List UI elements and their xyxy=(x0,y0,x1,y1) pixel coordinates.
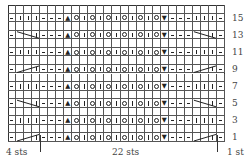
knitting-chart: ▲▼▲▼▲▼▲▼▲▼▲▼▲▼▲▼ xyxy=(8,5,225,142)
label-22-sts: 22 sts xyxy=(112,147,139,157)
cable-cross-symbol xyxy=(17,66,39,73)
row-label-13: 13 xyxy=(232,30,243,40)
row-label-5: 5 xyxy=(232,98,238,108)
row-label-7: 7 xyxy=(232,81,238,91)
row-label-1: 1 xyxy=(232,132,238,142)
repeat-marker-right xyxy=(217,135,218,152)
cable-cross-symbol xyxy=(17,32,39,39)
label-1-st: 1 st xyxy=(227,147,244,157)
cable-cross-symbol xyxy=(17,134,39,141)
row-label-9: 9 xyxy=(232,64,238,74)
cable-cross-symbol xyxy=(194,32,216,39)
cable-cross-symbol xyxy=(194,66,216,73)
cable-lines xyxy=(8,5,225,142)
row-label-3: 3 xyxy=(232,115,238,125)
row-label-11: 11 xyxy=(232,47,243,57)
label-4-sts: 4 sts xyxy=(6,147,27,157)
row-label-15: 15 xyxy=(232,13,243,23)
cable-cross-symbol xyxy=(194,100,216,107)
repeat-marker-left xyxy=(40,135,41,152)
cable-cross-symbol xyxy=(194,134,216,141)
cable-cross-symbol xyxy=(17,100,39,107)
